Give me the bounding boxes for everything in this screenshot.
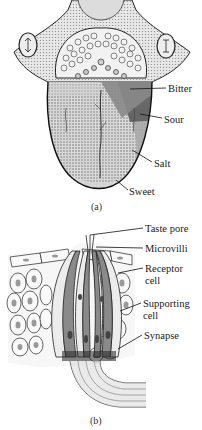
label-microvilli: Microvilli	[145, 243, 188, 254]
tongue-illustration	[0, 0, 202, 215]
label-receptor-cell: cell	[145, 275, 160, 286]
caption-a: (a)	[91, 201, 102, 212]
label-receptor: Receptor	[145, 263, 183, 274]
figure-a-tongue: Bitter Sour Salt Sweet (a)	[0, 0, 202, 215]
label-sour: Sour	[164, 114, 184, 125]
label-sweet: Sweet	[129, 186, 155, 197]
label-synapse: Synapse	[144, 330, 179, 341]
label-supporting-cell: cell	[143, 310, 158, 321]
caption-b: (b)	[90, 415, 102, 426]
label-bitter: Bitter	[168, 83, 192, 94]
label-supporting: Supporting	[143, 298, 190, 309]
label-taste-pore: Taste pore	[145, 223, 188, 234]
synapse-region	[62, 351, 116, 361]
label-salt: Salt	[154, 158, 170, 169]
figure-b-taste-bud: Taste pore Microvilli Receptor cell Supp…	[0, 215, 202, 430]
